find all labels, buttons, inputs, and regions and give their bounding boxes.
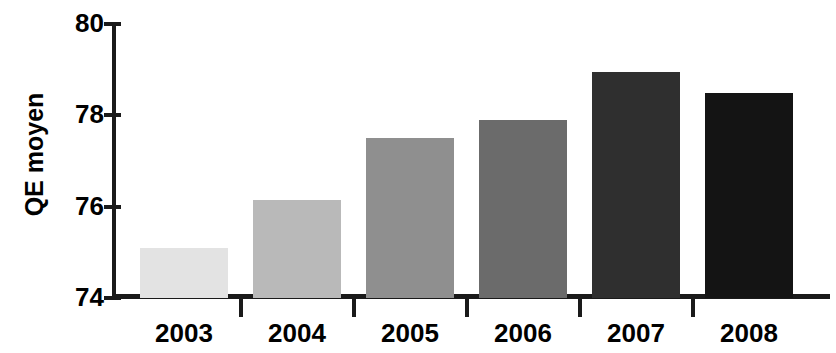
- bar-2008: [705, 93, 793, 299]
- y-axis-tick-labels: 74767880: [0, 0, 104, 353]
- x-axis-tick-label: 2004: [253, 320, 341, 346]
- bar-2007: [592, 72, 680, 298]
- y-axis-tick: [104, 22, 121, 26]
- y-axis-tick: [104, 205, 121, 209]
- bar-2005: [366, 138, 454, 298]
- x-axis-tick-label: 2008: [705, 320, 793, 346]
- y-axis-tick-label: 80: [32, 10, 104, 36]
- x-axis-tick: [465, 299, 469, 317]
- bar-2004: [253, 200, 341, 298]
- x-axis-tick-label: 2007: [592, 320, 680, 346]
- x-axis-tick: [239, 299, 243, 317]
- x-axis-tick-label: 2003: [140, 320, 228, 346]
- x-axis-tick-label: 2005: [366, 320, 454, 346]
- y-axis-tick: [104, 113, 121, 117]
- bar-2006: [479, 120, 567, 298]
- x-axis-tick: [691, 299, 695, 317]
- bar-2003: [140, 248, 228, 298]
- y-axis-tick-label: 76: [32, 193, 104, 219]
- y-axis-tick-label: 74: [32, 284, 104, 310]
- x-axis-tick: [578, 299, 582, 317]
- x-axis-tick: [352, 299, 356, 317]
- y-axis-tick: [104, 296, 121, 300]
- y-axis-tick-label: 78: [32, 101, 104, 127]
- bar-chart: QE moyen 74767880 2003200420052006200720…: [0, 0, 836, 353]
- x-axis-tick-label: 2006: [479, 320, 567, 346]
- y-axis-line: [112, 24, 116, 298]
